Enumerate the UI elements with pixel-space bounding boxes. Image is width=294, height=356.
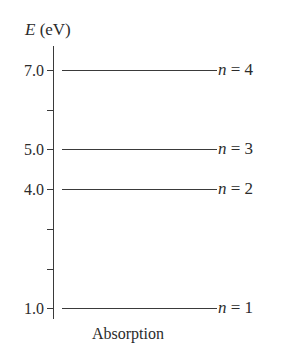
level-label-n3: n = 3 — [218, 140, 253, 158]
tick-1 — [47, 308, 54, 309]
level-label-n4: n = 4 — [218, 61, 253, 79]
tick-7 — [47, 70, 54, 71]
tick-label-4: 4.0 — [4, 181, 44, 199]
energy-axis — [53, 46, 54, 319]
level-label-n1: n = 1 — [218, 299, 253, 317]
level-label-n2: n = 2 — [218, 180, 253, 198]
axis-title-unit: (eV) — [35, 20, 70, 39]
tick-6 — [47, 110, 54, 111]
tick-4 — [47, 189, 54, 190]
tick-3 — [47, 229, 54, 230]
level-line-n2 — [62, 189, 217, 190]
axis-title: E (eV) — [25, 20, 71, 40]
level-line-n3 — [62, 149, 217, 150]
tick-label-1: 1.0 — [4, 300, 44, 318]
tick-5 — [47, 149, 54, 150]
axis-title-variable: E — [25, 20, 35, 39]
tick-label-7: 7.0 — [4, 62, 44, 80]
tick-label-5: 5.0 — [4, 141, 44, 159]
absorption-label: Absorption — [92, 325, 164, 343]
level-line-n1 — [62, 308, 217, 309]
tick-2 — [47, 269, 54, 270]
level-line-n4 — [62, 70, 217, 71]
